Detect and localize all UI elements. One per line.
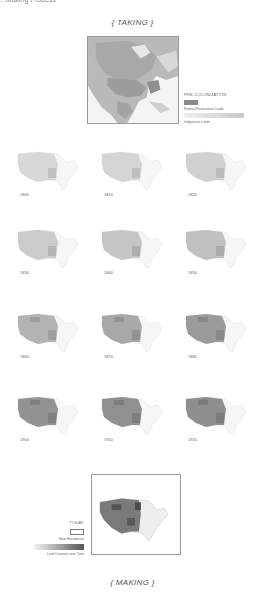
us-map-graphic — [100, 395, 170, 437]
us-map-graphic — [184, 150, 254, 192]
land-cessions-label: Land Cessions over Time — [47, 552, 84, 556]
timeline-map-1820 — [184, 150, 254, 192]
federal-reservation-swatch — [184, 100, 198, 105]
taking-title: { TAKING } — [0, 18, 265, 27]
north-america-map-graphic — [88, 37, 178, 123]
year-label: 1920 — [188, 437, 197, 442]
pre-colonization-map — [87, 36, 179, 124]
cut-off-header-text: ...Making Process — [0, 0, 90, 4]
year-label: 1850 — [188, 270, 197, 275]
federal-reservation-label: Federal Reservation Lands — [184, 107, 224, 111]
year-label: 1900 — [20, 437, 29, 442]
us-map-graphic — [100, 150, 170, 192]
year-label: 1800 — [20, 192, 29, 197]
us-map-graphic — [16, 312, 86, 354]
us-map-graphic — [16, 395, 86, 437]
year-label: 1820 — [188, 192, 197, 197]
land-cessions-swatch — [34, 544, 84, 550]
year-label: 1910 — [104, 437, 113, 442]
today-legend: TODAY State Boundaries Land Cessions ove… — [30, 520, 86, 565]
today-legend-title: TODAY — [70, 520, 84, 525]
timeline-map-1920 — [184, 395, 254, 437]
us-map-graphic — [184, 395, 254, 437]
us-map-graphic — [100, 228, 170, 270]
year-label: 1880 — [188, 354, 197, 359]
timeline-map-1880 — [184, 312, 254, 354]
us-map-graphic — [184, 228, 254, 270]
indigenous-lands-swatch — [184, 113, 244, 118]
timeline-map-1840 — [100, 228, 170, 270]
us-map-graphic — [184, 312, 254, 354]
year-label: 1810 — [104, 192, 113, 197]
pre-colonization-legend: PRE-COLONIZATION Federal Reservation Lan… — [184, 92, 264, 132]
timeline-map-1800 — [16, 150, 86, 192]
timeline-map-1870 — [100, 312, 170, 354]
timeline-map-1830 — [16, 228, 86, 270]
us-today-map-graphic — [92, 475, 180, 554]
state-boundaries-swatch — [70, 529, 84, 535]
year-label: 1860 — [20, 354, 29, 359]
today-map — [91, 474, 181, 555]
legend-title: PRE-COLONIZATION — [184, 92, 226, 97]
us-map-graphic — [16, 150, 86, 192]
us-map-graphic — [16, 228, 86, 270]
us-map-graphic — [100, 312, 170, 354]
year-label: 1830 — [20, 270, 29, 275]
year-label: 1870 — [104, 354, 113, 359]
timeline-map-1810 — [100, 150, 170, 192]
timeline-map-1910 — [100, 395, 170, 437]
state-boundaries-label: State Boundaries — [59, 537, 84, 541]
timeline-map-1850 — [184, 228, 254, 270]
indigenous-lands-label: Indigenous Lands — [184, 120, 210, 124]
year-label: 1840 — [104, 270, 113, 275]
timeline-map-1900 — [16, 395, 86, 437]
timeline-map-1860 — [16, 312, 86, 354]
making-title: { MAKING } — [0, 578, 265, 587]
